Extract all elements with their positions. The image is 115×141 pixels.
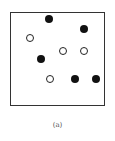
- filled-dot-icon: [45, 15, 53, 23]
- filled-dot-icon: [80, 25, 88, 33]
- open-dot-icon: [46, 75, 54, 83]
- open-dot-icon: [26, 34, 34, 42]
- filled-dot-icon: [92, 75, 100, 83]
- open-dot-icon: [59, 47, 67, 55]
- filled-dot-icon: [37, 55, 45, 63]
- figure-caption: (a): [0, 121, 115, 129]
- diagram-frame: [10, 12, 105, 106]
- open-dot-icon: [80, 47, 88, 55]
- filled-dot-icon: [71, 75, 79, 83]
